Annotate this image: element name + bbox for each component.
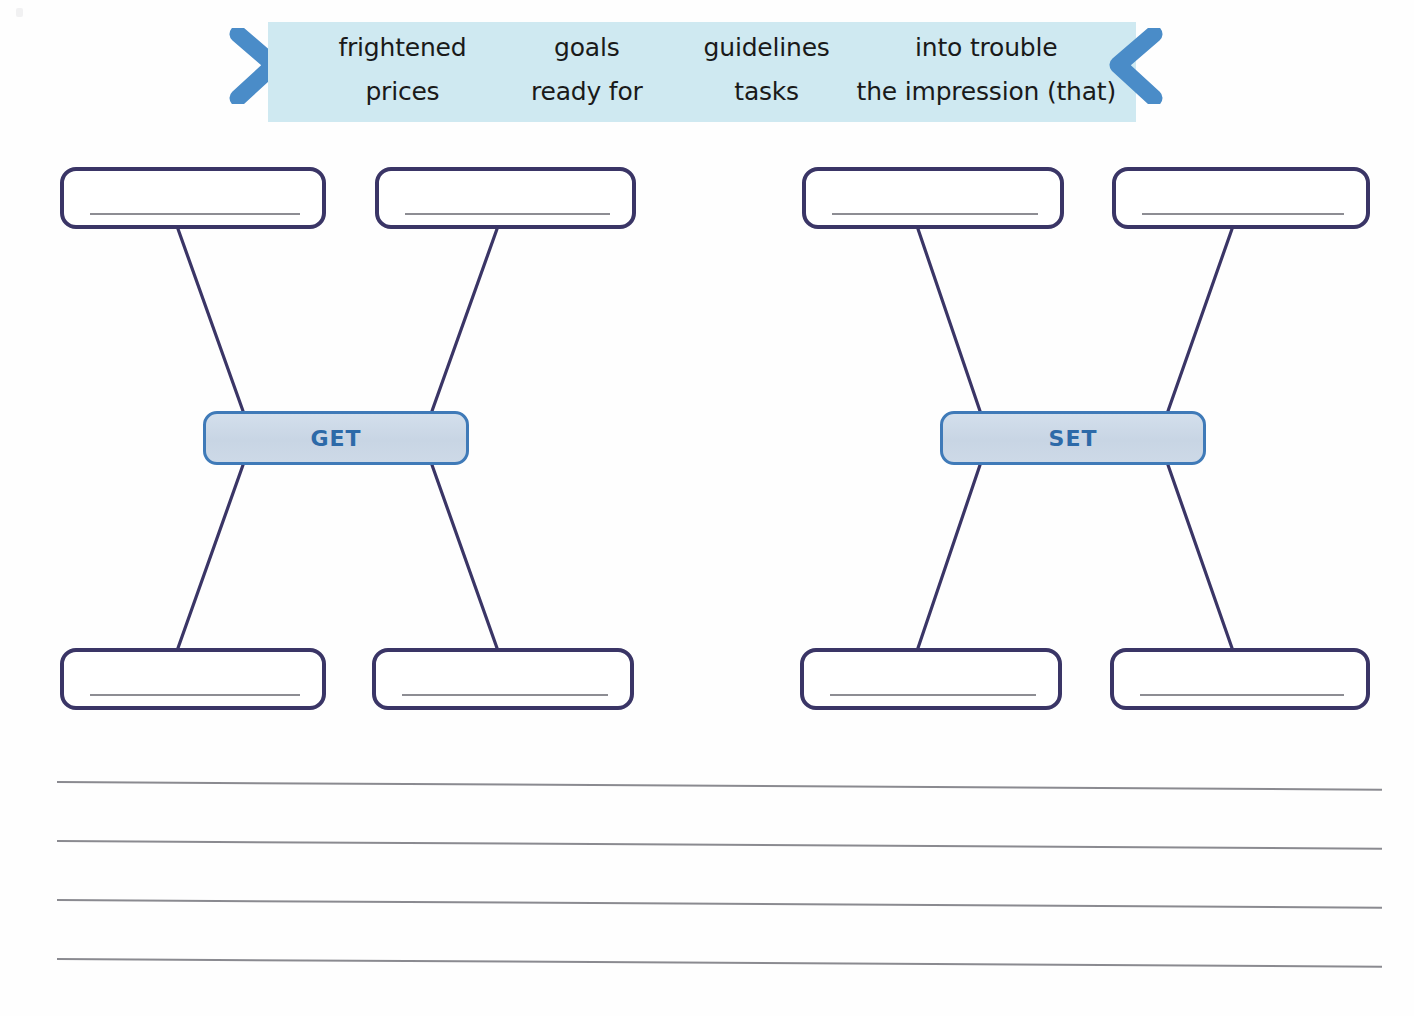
- writing-line: [1142, 213, 1344, 215]
- answer-box-get-top-left[interactable]: [60, 167, 326, 229]
- word-bank-banner: frightened goals guidelines into trouble…: [268, 22, 1136, 122]
- answer-box-set-bottom-right[interactable]: [1110, 648, 1370, 710]
- verb-chip-get: GET: [203, 411, 469, 465]
- verb-label-get: GET: [310, 426, 361, 451]
- connector-get-bottom-right: [432, 465, 497, 648]
- connector-get-top-right: [432, 229, 497, 411]
- word-bank-item: goals: [554, 34, 619, 62]
- writing-line: [402, 694, 608, 696]
- connector-set-top-right: [1168, 229, 1232, 411]
- writing-line: [405, 213, 610, 215]
- scan-artifact: [16, 8, 23, 17]
- word-bank-grid: frightened goals guidelines into trouble…: [268, 22, 1136, 122]
- connector-get-bottom-left: [178, 465, 243, 648]
- word-bank-item: frightened: [338, 34, 466, 62]
- writing-line: [832, 213, 1038, 215]
- connector-set-bottom-right: [1168, 465, 1232, 648]
- word-bank-item: ready for: [531, 78, 643, 106]
- writing-line: [830, 694, 1036, 696]
- verb-label-set: SET: [1049, 426, 1098, 451]
- ruled-line: [57, 899, 1382, 909]
- writing-line: [90, 213, 300, 215]
- answer-box-set-top-left[interactable]: [802, 167, 1064, 229]
- connector-set-top-left: [918, 229, 980, 411]
- answer-box-get-top-right[interactable]: [375, 167, 636, 229]
- writing-line: [1140, 694, 1344, 696]
- chevron-left-icon: [1108, 28, 1164, 104]
- ruled-line: [57, 840, 1382, 850]
- answer-box-set-bottom-left[interactable]: [800, 648, 1062, 710]
- word-bank-item: prices: [365, 78, 439, 106]
- ruled-line: [57, 781, 1382, 791]
- verb-chip-set: SET: [940, 411, 1206, 465]
- connector-get-top-left: [178, 229, 243, 411]
- answer-box-get-bottom-right[interactable]: [372, 648, 634, 710]
- answer-box-get-bottom-left[interactable]: [60, 648, 326, 710]
- answer-box-set-top-right[interactable]: [1112, 167, 1370, 229]
- word-bank-item: the impression (that): [857, 78, 1116, 106]
- connector-set-bottom-left: [918, 465, 980, 648]
- writing-line: [90, 694, 300, 696]
- connector-lines: [0, 0, 1414, 1016]
- word-bank-item: tasks: [734, 78, 799, 106]
- worksheet-page: frightened goals guidelines into trouble…: [0, 0, 1414, 1016]
- word-bank-item: guidelines: [704, 34, 830, 62]
- word-bank-item: into trouble: [915, 34, 1057, 62]
- ruled-line: [57, 958, 1382, 968]
